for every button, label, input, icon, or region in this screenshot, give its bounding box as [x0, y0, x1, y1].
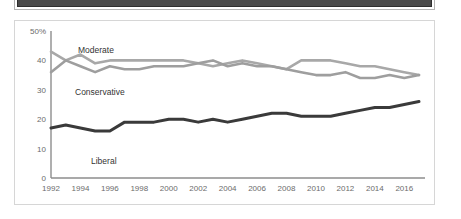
y-tick-label: 30 [37, 86, 46, 95]
y-tick-label: 0 [42, 174, 47, 183]
x-tick-label: 1994 [72, 184, 90, 193]
series-label-conservative: Conservative [75, 87, 125, 97]
y-tick-label: 10 [37, 145, 46, 154]
line-chart: 01020304050%1992199419961998200020022004… [15, 21, 436, 206]
x-tick-label: 2000 [160, 184, 178, 193]
x-tick-label: 1992 [42, 184, 60, 193]
x-tick-label: 1996 [101, 184, 119, 193]
x-tick-label: 2012 [337, 184, 355, 193]
y-tick-label: 20 [37, 115, 46, 124]
chart-svg: 01020304050%1992199419961998200020022004… [15, 21, 436, 206]
x-tick-label: 2010 [307, 184, 325, 193]
x-tick-label: 2002 [189, 184, 207, 193]
x-tick-label: 2006 [248, 184, 266, 193]
series-label-moderate: Moderate [78, 45, 114, 55]
y-tick-label: 40 [37, 56, 46, 65]
series-line-liberal [51, 102, 419, 131]
x-tick-label: 2004 [219, 184, 237, 193]
x-tick-label: 2014 [366, 184, 384, 193]
y-tick-label: 50% [30, 27, 46, 36]
top-dark-banner-fill [17, 0, 432, 7]
x-tick-label: 1998 [130, 184, 148, 193]
top-dark-banner [14, 0, 435, 10]
x-tick-label: 2016 [395, 184, 413, 193]
series-line-moderate [51, 52, 419, 76]
x-tick-label: 2008 [278, 184, 296, 193]
series-label-liberal: Liberal [91, 156, 117, 166]
chart-card: 01020304050%1992199419961998200020022004… [14, 20, 435, 205]
